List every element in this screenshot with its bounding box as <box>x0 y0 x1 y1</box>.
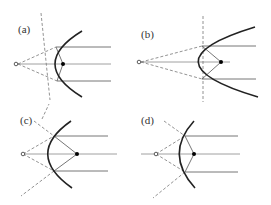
focus-point-icon <box>219 60 223 64</box>
panel-b <box>137 16 258 102</box>
focus-point-icon <box>75 152 79 156</box>
source-point-icon <box>14 62 18 66</box>
mirror-ray-diagram: (a) (b) (c) (d) <box>0 0 271 205</box>
source-point-icon <box>137 60 141 64</box>
focus-point-icon <box>192 152 196 156</box>
panel-a <box>14 13 111 100</box>
source-point-icon <box>154 152 158 156</box>
panel-c <box>21 104 117 196</box>
diagram-canvas <box>0 0 271 205</box>
source-point-icon <box>21 152 25 156</box>
focus-point-icon <box>61 62 65 66</box>
panel-d <box>141 121 240 198</box>
